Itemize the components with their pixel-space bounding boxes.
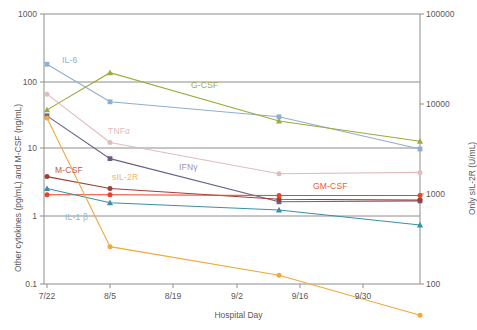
series-line-4	[47, 177, 420, 200]
series-marker-1-0	[44, 107, 50, 113]
series-marker-1-1	[107, 70, 113, 76]
series-IL6	[45, 62, 423, 152]
series-marker-3-1	[108, 156, 113, 161]
x-axis-tick-label-7-22: 7/22	[31, 291, 63, 301]
y-axis-right-tick-label-100000: 100000	[426, 9, 454, 19]
chart-root: 10001001010.11000001000010001007/228/58/…	[0, 0, 477, 330]
series-label-TNF: TNFα	[108, 126, 130, 136]
series-label-IL1: IL-1 β	[65, 212, 88, 222]
series-line-5	[47, 195, 420, 196]
series-marker-5-3	[418, 193, 423, 198]
y-axis-right-title: Only sIL-2R (U/mL)	[467, 142, 477, 215]
y-axis-right-tick-label-100: 100	[426, 279, 440, 289]
y-axis-right-tick-label-1000: 1000	[426, 189, 445, 199]
series-marker-0-3	[418, 147, 423, 152]
series-marker-0-0	[45, 62, 50, 67]
y-axis-left-tick-label-1000: 1000	[0, 9, 37, 19]
series-marker-5-0	[45, 192, 50, 197]
series-marker-2-3	[418, 170, 423, 175]
series-line-7	[47, 118, 420, 315]
series-marker-5-2	[277, 193, 282, 198]
series-marker-6-0	[44, 185, 50, 191]
x-axis-tick-label-9-30: 9/30	[347, 291, 379, 301]
series-GCSF	[44, 70, 423, 144]
x-axis-tick-label-9-2: 9/2	[221, 291, 253, 301]
series-marker-0-1	[108, 99, 113, 104]
series-line-1	[47, 73, 420, 142]
series-marker-7-1	[108, 244, 113, 249]
series-IL1	[44, 185, 423, 227]
x-axis-title: Hospital Day	[0, 310, 477, 320]
series-label-GMCSF: GM-CSF	[313, 181, 348, 191]
x-axis-tick-label-8-19: 8/19	[157, 291, 189, 301]
y-axis-right-tick-label-10000: 10000	[426, 99, 450, 109]
y-axis-left-title: Other cytokines (pg/mL) and M-CSF (ng/mL…	[13, 104, 23, 272]
series-MCSF	[45, 174, 423, 202]
series-IFN	[45, 113, 423, 204]
series-marker-7-2	[277, 273, 282, 278]
series-marker-4-0	[45, 174, 50, 179]
series-label-GCSF: G-CSF	[191, 80, 218, 90]
series-marker-4-3	[418, 198, 423, 203]
series-GMCSF	[45, 192, 423, 198]
series-marker-2-2	[277, 171, 282, 176]
series-line-6	[47, 188, 420, 224]
x-axis-tick-label-9-16: 9/16	[284, 291, 316, 301]
series-marker-5-1	[108, 192, 113, 197]
x-axis-tick-label-8-5: 8/5	[94, 291, 126, 301]
y-axis-left-tick-label-100: 100	[0, 77, 37, 87]
series-line-3	[47, 116, 420, 202]
series-marker-2-1	[108, 140, 113, 145]
series-label-MCSF: M-CSF	[55, 165, 83, 175]
series-label-IL6: IL-6	[62, 55, 77, 65]
series-marker-4-1	[108, 186, 113, 191]
series-sIL2R	[45, 115, 423, 317]
series-label-sIL2R: sIL-2R	[112, 172, 138, 182]
series-marker-2-0	[45, 92, 50, 97]
series-line-2	[47, 94, 420, 174]
y-axis-left-tick-label-0.1: 0.1	[0, 279, 37, 289]
series-marker-7-0	[45, 115, 50, 120]
series-label-IFN: IFNγ	[179, 162, 198, 172]
